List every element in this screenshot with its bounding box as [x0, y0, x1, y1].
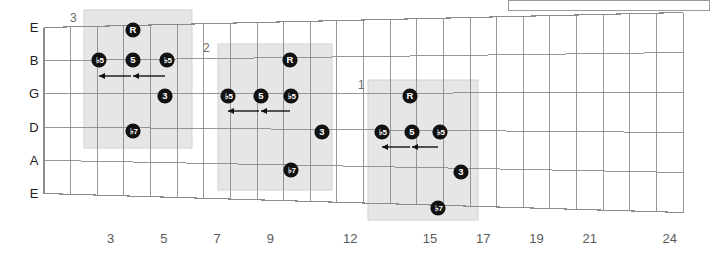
note-dot-label: 3 — [319, 126, 324, 137]
note-dot-R[interactable]: R — [402, 88, 417, 103]
note-dot-label: R — [130, 24, 137, 35]
note-dot-b5[interactable]: ♭5 — [283, 88, 298, 103]
fretboard-diagram: 321EBGDAE3579121517192124R♭55♭53♭7R♭55♭5… — [0, 0, 713, 259]
note-dot-b7[interactable]: ♭7 — [283, 162, 298, 177]
fret-number-12: 12 — [343, 231, 357, 246]
note-dot-label: 3 — [162, 90, 167, 101]
note-dot-5[interactable]: 5 — [125, 52, 140, 67]
scale-block-label: 1 — [358, 78, 365, 92]
fret-number-24: 24 — [662, 231, 676, 246]
note-dot-5[interactable]: 5 — [253, 88, 268, 103]
note-dot-label: 3 — [458, 166, 463, 177]
scale-block-region — [368, 80, 478, 220]
note-dot-b5[interactable]: ♭5 — [159, 52, 174, 67]
fret-numbers: 3579121517192124 — [107, 231, 677, 246]
fretboard-svg: 321EBGDAE3579121517192124R♭55♭53♭7R♭55♭5… — [0, 0, 713, 259]
scale-block-region — [218, 44, 332, 190]
note-dot-label: R — [287, 54, 294, 65]
note-dot-label: ♭7 — [130, 127, 139, 136]
note-dot-label: 5 — [258, 90, 264, 101]
note-dot-label: ♭5 — [288, 92, 297, 101]
note-dot-b5[interactable]: ♭5 — [91, 52, 106, 67]
fret-number-21: 21 — [583, 231, 597, 246]
note-dot-3[interactable]: 3 — [157, 88, 172, 103]
note-dot-label: ♭5 — [379, 128, 388, 137]
string-label-A-4: A — [30, 153, 39, 168]
scale-block-2[interactable]: 2 — [203, 41, 332, 190]
note-dot-label: ♭7 — [435, 204, 444, 213]
fret-number-3: 3 — [107, 231, 114, 246]
string-label-G-2: G — [29, 86, 39, 101]
scale-block-label: 3 — [70, 11, 77, 25]
note-dot-b7[interactable]: ♭7 — [430, 200, 445, 215]
note-dot-b5[interactable]: ♭5 — [374, 124, 389, 139]
note-dot-R[interactable]: R — [125, 22, 140, 37]
string-label-B-1: B — [30, 53, 39, 68]
fret-number-5: 5 — [160, 231, 167, 246]
note-dot-label: 5 — [130, 54, 136, 65]
note-dot-label: R — [407, 90, 414, 101]
note-dot-label: ♭7 — [288, 166, 297, 175]
note-dot-b7[interactable]: ♭7 — [125, 123, 140, 138]
note-dot-b5[interactable]: ♭5 — [220, 88, 235, 103]
fret-number-7: 7 — [213, 231, 220, 246]
note-dot-label: ♭5 — [96, 56, 105, 65]
note-dot-5[interactable]: 5 — [404, 124, 419, 139]
string-label-E-5: E — [30, 186, 39, 201]
note-dot-label: ♭5 — [164, 56, 173, 65]
string-labels: EBGDAE — [29, 20, 39, 201]
note-dot-label: ♭5 — [437, 128, 446, 137]
note-dot-R[interactable]: R — [282, 52, 297, 67]
note-dot-label: 5 — [409, 126, 415, 137]
fret-number-15: 15 — [423, 231, 437, 246]
fret-number-19: 19 — [529, 231, 543, 246]
note-dot-3[interactable]: 3 — [314, 124, 329, 139]
fret-number-17: 17 — [476, 231, 490, 246]
string-label-E-0: E — [30, 20, 39, 35]
note-dot-3[interactable]: 3 — [453, 164, 468, 179]
fret-number-9: 9 — [267, 231, 274, 246]
legend-box — [508, 0, 710, 11]
note-dot-label: ♭5 — [225, 92, 234, 101]
note-dot-b5[interactable]: ♭5 — [432, 124, 447, 139]
string-label-D-3: D — [29, 120, 38, 135]
